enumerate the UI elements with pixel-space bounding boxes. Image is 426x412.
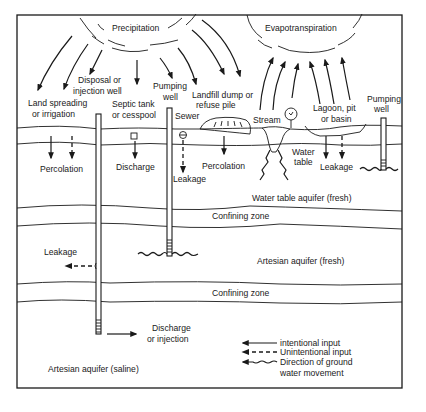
legend: intentional input Unintentional input Di… [243, 338, 353, 378]
pumping-well-right-label: Pumpingwell [367, 94, 401, 114]
sewer-pipe-icon [180, 132, 187, 139]
land-spreading-label: Land spreadingor irrigation [28, 98, 87, 119]
discharge-septic-label: Discharge [116, 162, 155, 172]
confining-zone-2-label: Confining zone [212, 288, 270, 298]
confining-zone-1-top [17, 205, 402, 211]
percolation-left-label: Percolation [40, 164, 83, 174]
confining-zone-2-top [17, 282, 402, 285]
legend-unintentional-label: Unintentional input [280, 347, 352, 357]
lagoon-label: Lagoon, pitor basin [313, 103, 356, 124]
disposal-well-label: Disposal orinjection well [73, 75, 122, 96]
legend-groundwater-label: Direction of groundwater movement [279, 357, 353, 378]
evapotranspiration-cloud-icon [247, 14, 362, 53]
landfill-mound-icon [200, 117, 251, 134]
precipitation-label: Precipitation [112, 23, 160, 33]
groundwater-contamination-diagram: Precipitation Evapotranspiration Land sp… [0, 0, 426, 412]
leakage-lagoon-label: Leakage [320, 162, 353, 172]
sewer-label: Sewer [175, 111, 199, 121]
septic-tank-label: Septic tankor cesspool [112, 99, 156, 120]
water-table-line [17, 142, 402, 145]
leakage-sewer-label: Leakage [173, 174, 206, 184]
percolation-landfill-label: Percolation [202, 161, 245, 171]
leakage-artesian-label: Leakage [44, 247, 77, 257]
discharge-injection-label: Dischargeor injection [147, 323, 191, 344]
pumping-well-left-label: Pumpingwell [153, 81, 187, 102]
artesian-fresh-label: Artesian aquifer (fresh) [257, 256, 345, 266]
tree-icon [285, 108, 297, 128]
water-table-aquifer-label: Water table aquifer (fresh) [252, 193, 352, 203]
water-table-label: Watertable [292, 147, 315, 167]
artesian-saline-label: Artesian aquifer (saline) [48, 364, 139, 374]
septic-tank-icon [131, 133, 137, 139]
ground-surface [17, 125, 402, 129]
disposal-injection-well-icon [95, 114, 101, 334]
confining-zone-2-bottom [17, 300, 402, 304]
stream-channel-icon [260, 128, 290, 180]
stream-label: Stream [253, 115, 281, 125]
confining-zone-1-bottom [17, 223, 402, 229]
confining-zone-1-label: Confining zone [212, 211, 270, 221]
landfill-label: Landfill dump orrefuse pile [192, 90, 253, 110]
evapotranspiration-label: Evapotranspiration [265, 23, 337, 33]
